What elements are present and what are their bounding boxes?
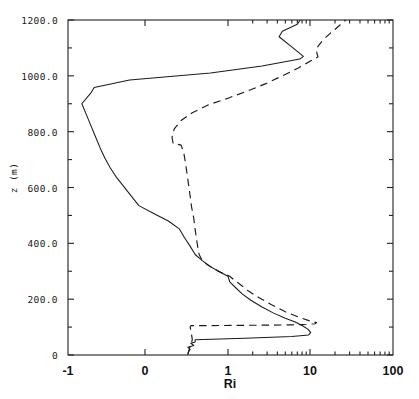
series-line-solid-profile (82, 20, 311, 355)
plot-canvas (0, 0, 419, 399)
y-tick-label: 0 (0, 350, 58, 361)
y-tick-label: 400.0 (0, 238, 58, 249)
x-tick-label: 1 (225, 364, 232, 378)
x-tick-label: 10 (303, 364, 317, 378)
chart-figure: 0200.0400.0600.0800.01000.01200.0 -10110… (0, 0, 419, 399)
x-axis-title: Ri (224, 377, 237, 391)
y-tick-label: 200.0 (0, 294, 58, 305)
data-series-group (82, 20, 346, 355)
x-tick-label: 0 (142, 364, 149, 378)
y-tick-label: 800.0 (0, 126, 58, 137)
x-tick-label: -1 (62, 364, 73, 378)
y-tick-label: 1000.0 (0, 70, 58, 81)
y-axis-title: z (m) (8, 163, 19, 194)
x-tick-label: 100 (383, 364, 404, 378)
y-tick-label: 1200.0 (0, 15, 58, 26)
series-line-dashed-profile (172, 20, 346, 354)
